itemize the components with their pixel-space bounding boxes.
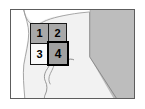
grid-cell-4-highlighted[interactable]: 4 [47,41,69,66]
quadrangle-index-grid: 1 2 3 4 [30,23,68,65]
locator-map-figure: 1 2 3 4 [0,0,145,109]
grid-cell-4-label: 4 [55,47,62,59]
nevada-area [90,10,134,98]
grid-cell-1-label: 1 [36,28,42,39]
map-frame: 1 2 3 4 [10,9,135,99]
coastline-north [19,10,90,24]
grid-cell-2-label: 2 [54,28,60,39]
grid-cell-3-label: 3 [36,48,42,59]
